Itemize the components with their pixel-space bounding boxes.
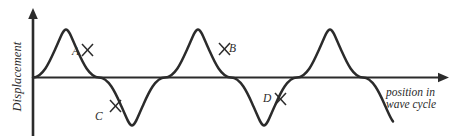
marker-a-cross [82,44,93,56]
y-axis [28,8,38,136]
wave-diagram-figure: Displacement position inwave cycle A B C… [0,0,463,140]
x-axis-label-line1: position in [386,86,435,98]
y-axis-label: Displacement [11,22,24,132]
wave-plot-svg [0,0,463,140]
marker-c-cross [110,100,121,112]
point-label-a: A [72,45,79,57]
point-label-b: B [229,42,236,54]
arrow-up-icon [28,8,38,19]
x-axis-label: position inwave cycle [386,86,436,110]
x-axis-label-line2: wave cycle [386,98,436,110]
point-label-c: C [95,110,103,122]
point-label-d: D [263,92,271,104]
arrow-right-icon [438,73,449,83]
